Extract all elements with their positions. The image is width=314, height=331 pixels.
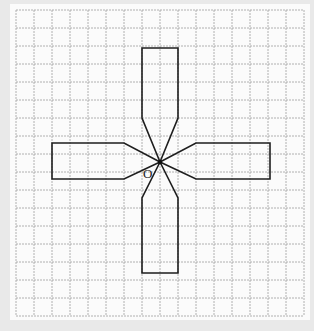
grid-diagram: [0, 0, 314, 331]
right-arm: [160, 143, 270, 179]
center-label: O: [143, 166, 152, 182]
center-point: [158, 160, 162, 164]
